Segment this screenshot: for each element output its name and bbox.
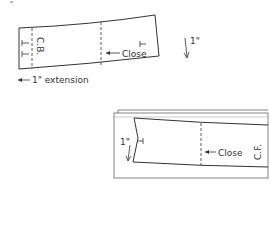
one-inch-label: 1"	[120, 137, 130, 147]
pattern-diagram: C.B. Close 1" 1" extension Close C.F. 1"	[0, 0, 270, 231]
one-inch-label: 1"	[190, 36, 200, 46]
close-label: Close	[122, 49, 147, 59]
back-band-piece: C.B. Close 1" 1" extension	[18, 15, 200, 85]
center-front-label: C.F.	[253, 144, 263, 160]
stray-mark	[10, 1, 13, 3]
close-label: Close	[218, 148, 243, 158]
front-band-piece: Close C.F. 1"	[114, 110, 268, 178]
center-back-label: C.B.	[35, 37, 45, 55]
extension-arrow-head	[18, 78, 22, 82]
extension-label: 1" extension	[32, 75, 89, 85]
down-arrow-icon	[185, 38, 187, 57]
piece-outline	[133, 118, 268, 167]
paper-frame	[114, 113, 268, 178]
left-arrow-head	[106, 51, 110, 55]
left-arrow-head	[205, 150, 209, 154]
